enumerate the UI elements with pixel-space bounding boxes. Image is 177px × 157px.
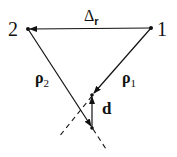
point-2 bbox=[26, 27, 30, 31]
rho2-label: ρ2 bbox=[35, 70, 49, 89]
point-2-label: 2 bbox=[8, 19, 18, 39]
delta-symbol: Δ bbox=[84, 7, 94, 24]
rho2-symbol: ρ bbox=[35, 69, 44, 86]
rho1-label: ρ1 bbox=[122, 70, 136, 89]
point-1-label: 1 bbox=[157, 19, 167, 39]
point-1 bbox=[149, 26, 153, 30]
point-p1 bbox=[90, 93, 94, 97]
point-p2 bbox=[90, 126, 94, 130]
rho1-symbol: ρ bbox=[122, 69, 131, 86]
rho2-subscript: 2 bbox=[44, 77, 50, 89]
rho1-subscript: 1 bbox=[131, 77, 137, 89]
rho2-extension-dashed bbox=[93, 129, 106, 149]
delta-r-label: Δr bbox=[84, 8, 99, 27]
delta-subscript: r bbox=[94, 15, 98, 27]
vector-diagram: 2 1 Δr ρ1 ρ2 d bbox=[0, 0, 177, 157]
delta-r-vector bbox=[30, 28, 151, 29]
d-label: d bbox=[102, 100, 111, 117]
